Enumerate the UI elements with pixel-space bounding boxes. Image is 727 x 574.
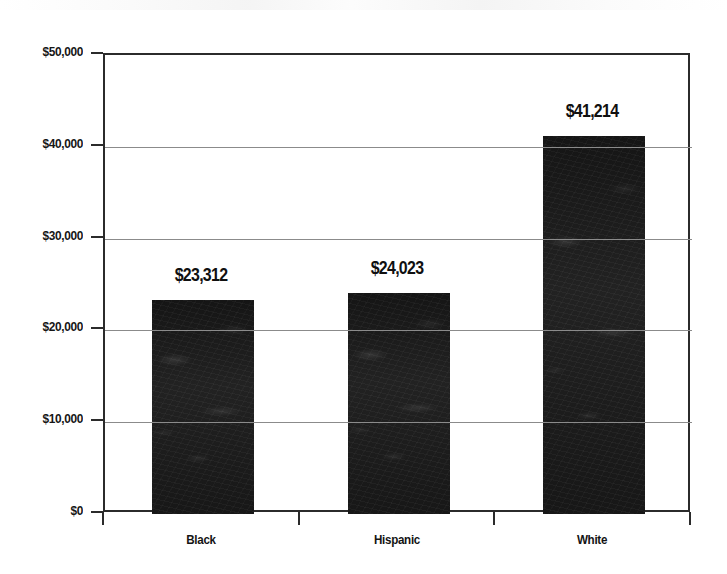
gridline: [105, 147, 692, 148]
y-axis-tick-label: $30,000: [10, 228, 83, 243]
gridline: [105, 239, 692, 240]
y-axis-tick-mark: [91, 419, 103, 421]
y-axis-tick-label: $0: [10, 503, 83, 518]
x-axis-tick-mark: [689, 512, 691, 525]
gridline: [105, 422, 692, 423]
x-axis-tick-mark: [493, 512, 495, 525]
bar: [543, 136, 645, 514]
gridline: [105, 330, 692, 331]
y-axis-tick-label: $40,000: [10, 136, 83, 151]
bar-value-label: $24,023: [328, 257, 466, 279]
bar-chart: $0$10,000$20,000$30,000$40,000$50,000 $2…: [0, 0, 727, 574]
y-axis-tick-mark: [91, 236, 103, 238]
y-axis-tick-label: $50,000: [10, 44, 83, 59]
y-axis-tick-mark: [91, 327, 103, 329]
y-axis-tick-mark: [91, 144, 103, 146]
y-axis-tick-label: $10,000: [10, 411, 83, 426]
bar: [348, 293, 450, 514]
bar: [152, 300, 254, 514]
x-axis-category-label: Hispanic: [328, 532, 466, 547]
y-axis-tick-label: $20,000: [10, 319, 83, 334]
x-axis-tick-mark: [298, 512, 300, 525]
bar-value-label: $23,312: [132, 264, 270, 286]
x-axis-category-label: Black: [132, 532, 270, 547]
bar-value-label: $41,214: [523, 100, 661, 122]
y-axis-tick-mark: [91, 52, 103, 54]
x-axis-category-label: White: [523, 532, 661, 547]
x-axis-tick-mark: [102, 512, 104, 525]
